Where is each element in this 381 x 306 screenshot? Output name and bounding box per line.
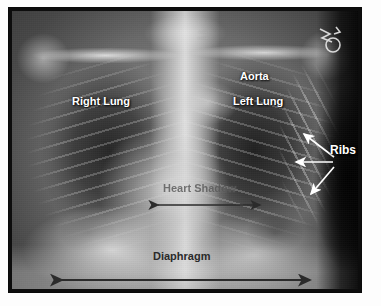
label-right-lung: Right Lung — [72, 96, 130, 107]
label-ribs: Ribs — [330, 144, 356, 156]
annotation-arrow-overlay — [12, 11, 358, 289]
label-left-lung: Left Lung — [233, 96, 283, 107]
label-heart-shadow: Heart Shadow — [163, 183, 236, 194]
rib-arrow-lower — [311, 167, 334, 194]
label-aorta: Aorta — [240, 71, 269, 82]
label-diaphragm: Diaphragm — [153, 251, 210, 262]
rib-arrow-group — [296, 134, 334, 194]
chest-xray-image: ▫▫▫▫ ▫▫▫▫▫ — [12, 11, 358, 289]
screenshot-root: ▫▫▫▫ ▫▫▫▫▫ — [0, 0, 381, 306]
